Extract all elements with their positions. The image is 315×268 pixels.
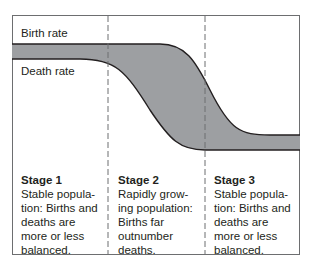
- stage-2-description: Rapidly grow- ing population: Births far…: [118, 187, 210, 257]
- stage-2-block: Stage 2 Rapidly grow- ing population: Bi…: [118, 173, 210, 257]
- stage-1-block: Stage 1 Stable popula- tion: Births and …: [21, 173, 113, 257]
- stage-2-title: Stage 2: [118, 173, 210, 187]
- stage-1-title: Stage 1: [21, 173, 113, 187]
- death-rate-label: Death rate: [21, 64, 75, 78]
- stage-3-description: Stable popula- tion: Births and deaths a…: [214, 187, 306, 257]
- stage-3-block: Stage 3 Stable popula- tion: Births and …: [214, 173, 306, 257]
- birth-rate-label: Birth rate: [21, 26, 68, 40]
- stage-1-description: Stable popula- tion: Births and deaths a…: [21, 187, 113, 257]
- stage-3-title: Stage 3: [214, 173, 306, 187]
